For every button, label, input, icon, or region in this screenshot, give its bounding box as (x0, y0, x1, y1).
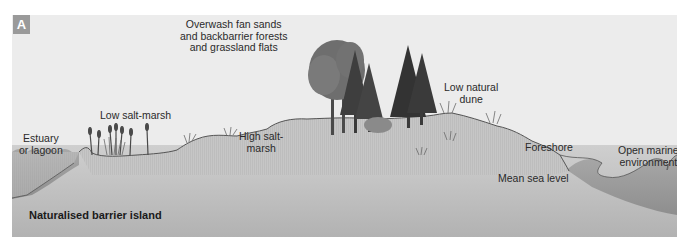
label-low-salt-marsh: Low salt-marsh (100, 110, 171, 122)
diagram-title: Naturalised barrier island (29, 209, 162, 221)
barrier-island-diagram: A Overwash fan sands and backbarrier for… (12, 15, 677, 237)
label-high-salt-marsh: High salt- marsh (239, 131, 283, 154)
label-estuary: Estuary or lagoon (19, 133, 63, 156)
label-overwash: Overwash fan sands and backbarrier fores… (180, 19, 287, 54)
label-low-natural-dune: Low natural dune (444, 82, 498, 105)
cross-section-illustration (12, 15, 677, 237)
label-open-marine: Open marine environment (618, 145, 677, 168)
island-hatched-layer (79, 113, 569, 175)
label-foreshore: Foreshore (525, 142, 573, 154)
panel-label-badge: A (13, 15, 30, 34)
label-mean-sea-level: Mean sea level (498, 173, 569, 185)
